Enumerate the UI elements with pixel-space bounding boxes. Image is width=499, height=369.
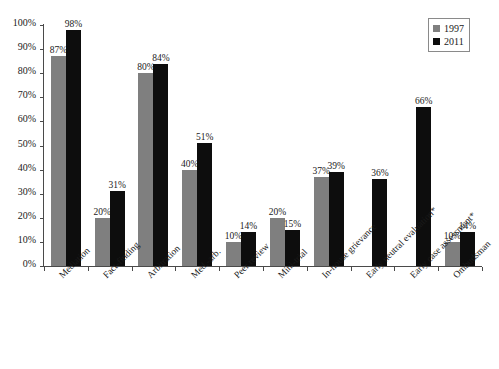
bar: 20% (270, 218, 285, 266)
bar: 98% (66, 30, 81, 266)
bar-value-label: 14% (240, 221, 257, 231)
y-axis-tick-label: 40% (18, 163, 36, 173)
x-axis-tick-mark (307, 267, 308, 271)
bar-value-label: 36% (371, 168, 388, 178)
bar: 80% (138, 73, 153, 266)
x-axis-tick-mark (263, 267, 264, 271)
x-axis-tick-mark (219, 267, 220, 271)
bar-value-label: 84% (152, 53, 169, 63)
bar: 40% (182, 170, 197, 266)
bar-value-label: 10% (225, 231, 242, 241)
x-axis-tick-mark (132, 267, 133, 271)
bar-value-label: 40% (181, 159, 198, 169)
y-axis-tick-label: 90% (18, 42, 36, 52)
x-axis-tick-mark (438, 267, 439, 271)
legend-item[interactable]: 1997 (433, 22, 464, 35)
bar-group: 37%39% (307, 25, 351, 266)
bar-value-label: 39% (327, 161, 344, 171)
bar-group-bars: 20%31% (88, 25, 132, 266)
y-axis-tick-label: 80% (18, 66, 36, 76)
bar-value-label: 87% (50, 45, 67, 55)
x-axis-tick-mark (394, 267, 395, 271)
bar-group: 87%98% (44, 25, 88, 266)
y-axis-tick-label: 100% (13, 18, 36, 28)
y-axis-tick-label: 0% (23, 259, 36, 269)
x-axis-tick-mark (351, 267, 352, 271)
bar-value-label: 80% (137, 62, 154, 72)
legend-item[interactable]: 2011 (433, 35, 464, 48)
y-axis-tick-label: 60% (18, 114, 36, 124)
bar-value-label: 98% (65, 19, 82, 29)
bar-value-label: 20% (93, 207, 110, 217)
y-axis-tick-label: 50% (18, 139, 36, 149)
bar-group: 20%31% (88, 25, 132, 266)
legend-swatch-icon (433, 25, 440, 32)
bar-group: 10%14% (219, 25, 263, 266)
bar-value-label: 15% (284, 219, 301, 229)
y-axis-tick-label: 10% (18, 235, 36, 245)
bar-chart: 0%10%20%30%40%50%60%70%80%90%100% 87%98%… (0, 0, 499, 369)
y-axis-tick-label: 20% (18, 211, 36, 221)
legend-item-label: 1997 (444, 23, 464, 34)
bar-value-label: 31% (108, 180, 125, 190)
y-axis-tick-label: 30% (18, 187, 36, 197)
bar-group-bars: 80%84% (132, 25, 176, 266)
bar-group-bars: 10%14% (219, 25, 263, 266)
bar: 10% (226, 242, 241, 266)
bar-group-bars: 87%98% (44, 25, 88, 266)
bar: 84% (153, 64, 168, 266)
bar-group-bars: 37%39% (307, 25, 351, 266)
bar-value-label: 20% (269, 207, 286, 217)
bar: 87% (51, 56, 66, 266)
legend-item-label: 2011 (444, 36, 464, 47)
bar-group-bars: 40%51% (175, 25, 219, 266)
bar-value-label: 66% (415, 96, 432, 106)
bar-group-bars: 20%15% (263, 25, 307, 266)
bar-group: 20%15% (263, 25, 307, 266)
x-axis-tick-mark (88, 267, 89, 271)
bar: 37% (314, 177, 329, 266)
bar-group: 40%51% (175, 25, 219, 266)
bar: 20% (95, 218, 110, 266)
legend-swatch-icon (433, 38, 440, 45)
x-axis-tick-mark (175, 267, 176, 271)
bar-value-label: 51% (196, 132, 213, 142)
y-axis-tick-label: 70% (18, 90, 36, 100)
bar: 66% (416, 107, 431, 266)
bar-group: 80%84% (132, 25, 176, 266)
x-axis-tick-mark (482, 267, 483, 271)
x-axis-tick-mark (44, 267, 45, 271)
chart-legend: 19972011 (428, 18, 470, 52)
bar: 51% (197, 143, 212, 266)
